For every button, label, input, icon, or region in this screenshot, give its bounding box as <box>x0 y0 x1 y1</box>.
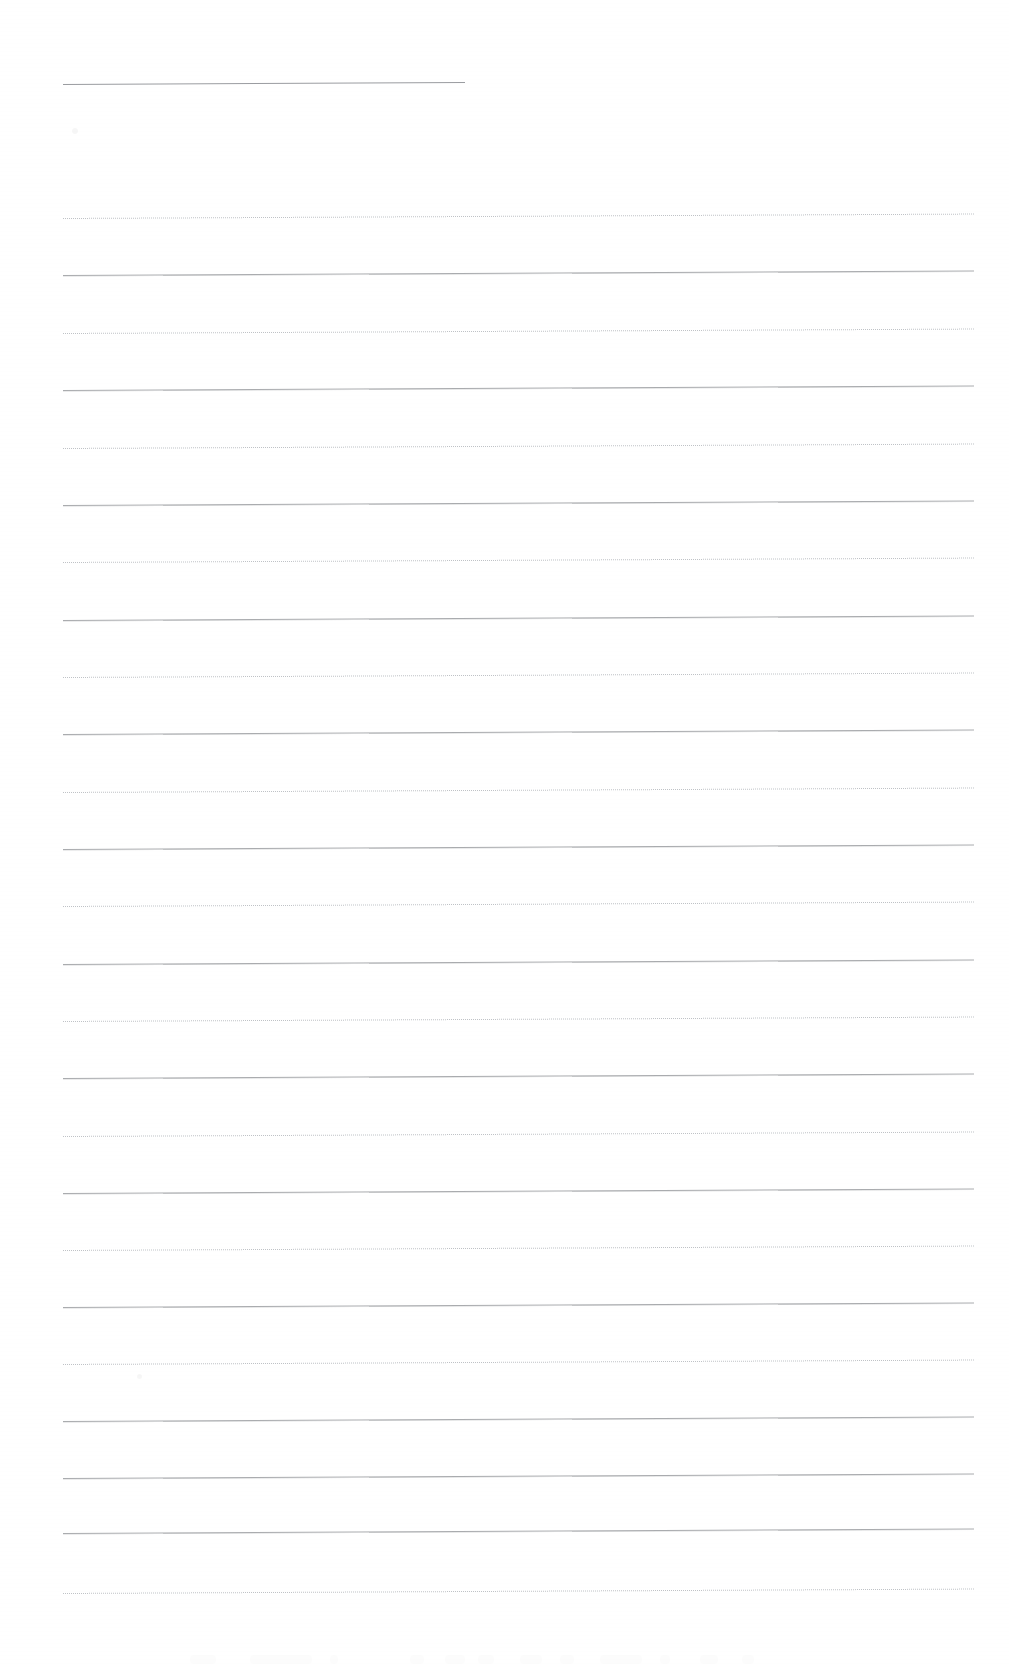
ruled-line <box>63 1189 974 1194</box>
ruled-line <box>63 558 974 563</box>
bottom-smudge <box>190 1655 216 1664</box>
ruled-line <box>63 329 974 334</box>
bottom-smudge <box>700 1655 718 1664</box>
header-rule <box>63 82 465 85</box>
ruled-line <box>63 1417 974 1422</box>
ruled-line <box>63 845 974 850</box>
scan-noise-overlay <box>0 0 1009 1664</box>
ruled-line <box>63 1132 974 1137</box>
ruled-line <box>63 902 974 907</box>
ruled-line <box>63 501 974 506</box>
bottom-smudge <box>742 1655 754 1664</box>
ruled-line <box>63 1474 974 1479</box>
page-body-text <box>0 0 1 1</box>
page-title: Blank ruled notebook page (scan) <box>0 0 1 1</box>
paper-surface <box>0 0 1009 1664</box>
bottom-smudge <box>560 1655 574 1664</box>
scanned-page: Blank ruled notebook page (scan) <box>0 0 1009 1664</box>
ruled-line <box>63 214 974 219</box>
faint-scan-mark <box>72 128 78 134</box>
ruled-line <box>63 730 974 735</box>
ruled-line <box>63 960 974 965</box>
bottom-smudge <box>478 1655 494 1664</box>
ruled-line <box>63 444 974 449</box>
bottom-smudge <box>660 1655 670 1664</box>
bottom-smudge <box>520 1655 542 1664</box>
ruled-line <box>63 1589 974 1594</box>
ruled-line <box>63 1529 974 1534</box>
ruled-line <box>63 1360 974 1365</box>
bottom-edge-artifacts <box>0 1630 1009 1664</box>
bottom-smudge <box>410 1655 424 1664</box>
bottom-smudge <box>250 1655 312 1664</box>
ruled-line <box>63 386 974 391</box>
ruled-line <box>63 673 974 678</box>
bottom-smudge <box>600 1655 642 1664</box>
bottom-smudge <box>330 1655 338 1664</box>
faint-scan-mark <box>137 1374 142 1379</box>
ruled-line <box>63 271 974 276</box>
ruled-line <box>63 788 974 793</box>
ruled-line <box>63 616 974 621</box>
ruled-line <box>63 1017 974 1022</box>
ruled-line <box>63 1246 974 1251</box>
ruled-line <box>63 1303 974 1308</box>
bottom-smudge <box>445 1655 465 1664</box>
ruled-line <box>63 1074 974 1079</box>
